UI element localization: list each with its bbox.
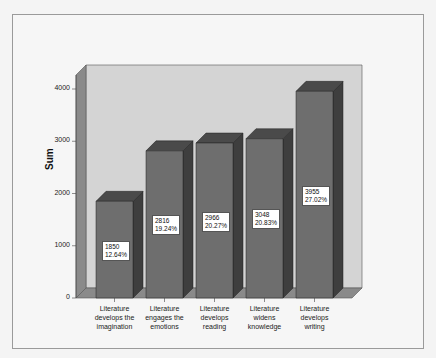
data-percent: 19.24% [155,225,177,233]
data-label: 296620.27% [202,212,230,232]
y-axis-title: Sum [44,148,55,170]
data-value: 3955 [305,188,327,196]
label-line: writing [285,322,345,331]
data-label: 185012.64% [102,241,130,261]
data-value: 1850 [105,243,127,251]
data-percent: 12.64% [105,251,127,259]
data-percent: 20.27% [205,222,227,230]
data-value: 3048 [255,211,277,219]
data-value: 2966 [205,214,227,222]
data-label: 281619.24% [152,215,180,235]
data-label: 304820.83% [252,209,280,229]
side-wall [76,65,86,298]
label-line: Literature [285,304,345,313]
label-line: develops [285,313,345,322]
y-tick-label: 1000 [40,241,70,248]
y-tick-label: 4000 [40,84,70,91]
data-percent: 27.02% [305,196,327,204]
y-tick-label: 2000 [40,189,70,196]
y-tick-label: 0 [40,293,70,300]
data-percent: 20.83% [255,219,277,227]
y-tick-label: 3000 [40,136,70,143]
data-value: 2816 [155,217,177,225]
data-label: 395527.02% [302,186,330,206]
x-category-label: Literaturedevelopswriting [285,304,345,331]
